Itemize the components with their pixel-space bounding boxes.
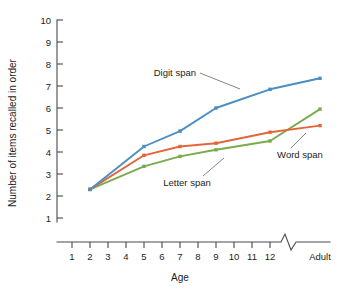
data-point-marker <box>214 106 217 109</box>
y-tick-label-6: 6 <box>46 103 51 114</box>
x-axis-ticks <box>72 242 270 248</box>
word-span-label: Word span <box>277 149 323 160</box>
data-point-marker <box>178 155 181 158</box>
x-tick-label-7: 7 <box>177 251 182 262</box>
line-chart: Number of items recalled in order 10 9 8… <box>0 0 346 291</box>
data-point-marker <box>318 124 321 127</box>
y-tick-label-4: 4 <box>46 147 51 158</box>
data-point-marker <box>178 129 181 132</box>
digit-span-label: Digit span <box>154 67 196 78</box>
word-span-leader <box>291 133 306 148</box>
letter-span-label: Letter span <box>163 177 211 188</box>
y-tick-label-2: 2 <box>46 191 51 202</box>
data-point-marker <box>318 77 321 80</box>
chart-container: Number of items recalled in order 10 9 8… <box>0 0 346 291</box>
y-tick-label-5: 5 <box>46 125 51 136</box>
x-tick-label-1: 1 <box>69 251 74 262</box>
data-point-marker <box>214 142 217 145</box>
letter-span-leader <box>203 158 224 176</box>
data-point-marker <box>268 131 271 134</box>
x-tick-label-10: 10 <box>229 251 240 262</box>
x-axis-title: Age <box>171 272 189 283</box>
y-tick-label-10: 10 <box>40 15 51 26</box>
x-tick-label-12: 12 <box>265 251 276 262</box>
data-point-marker <box>268 88 271 91</box>
x-tick-label-adult: Adult <box>309 251 331 262</box>
x-tick-label-2: 2 <box>87 251 92 262</box>
x-tick-label-4: 4 <box>123 251 128 262</box>
y-tick-label-3: 3 <box>46 169 51 180</box>
x-tick-label-8: 8 <box>195 251 200 262</box>
data-point-marker <box>142 165 145 168</box>
data-point-marker <box>178 145 181 148</box>
y-tick-label-9: 9 <box>46 37 51 48</box>
x-tick-label-9: 9 <box>213 251 218 262</box>
data-point-marker <box>142 145 145 148</box>
y-tick-label-7: 7 <box>46 81 51 92</box>
y-tick-label-1: 1 <box>46 213 51 224</box>
annotation-word-span: Word span <box>277 133 323 160</box>
x-tick-label-11: 11 <box>247 251 257 262</box>
data-point-marker <box>318 107 321 110</box>
data-point-marker <box>142 154 145 157</box>
x-tick-label-6: 6 <box>159 251 164 262</box>
x-tick-label-5: 5 <box>141 251 146 262</box>
y-tick-label-8: 8 <box>46 59 51 70</box>
y-axis-ticks: 10 9 8 7 6 5 4 3 2 1 <box>40 15 63 224</box>
y-axis-title: Number of items recalled in order <box>7 58 18 207</box>
data-point-marker <box>88 188 91 191</box>
data-point-marker <box>268 139 271 142</box>
digit-span-leader <box>200 73 240 89</box>
x-axis-tick-labels: 1 2 3 4 5 6 7 8 9 10 11 12 Adult <box>69 251 331 262</box>
annotation-digit-span: Digit span <box>154 67 240 89</box>
data-point-marker <box>214 148 217 151</box>
x-tick-label-3: 3 <box>105 251 110 262</box>
digit-span-line <box>90 78 320 189</box>
annotation-letter-span: Letter span <box>163 158 224 188</box>
x-axis-line <box>57 234 330 250</box>
